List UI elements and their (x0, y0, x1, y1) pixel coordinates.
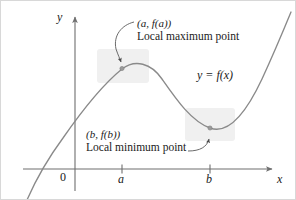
function-equation-label: y = f(x) (197, 69, 233, 82)
local-maximum-point-marker (120, 66, 124, 70)
max-point-highlight-box (97, 49, 149, 83)
y-axis-label: y (57, 11, 62, 24)
x-tick-label-b: b (206, 173, 212, 186)
origin-label: 0 (60, 171, 66, 184)
x-axis-label: x (277, 173, 282, 186)
figure-canvas: (a, f(a)) Local maximum point (b, f(b)) … (0, 0, 296, 200)
local-maximum-description-label: Local maximum point (137, 30, 239, 42)
local-minimum-point-marker (208, 126, 212, 130)
local-minimum-description-label: Local minimum point (86, 141, 186, 153)
x-tick-label-a: a (118, 173, 124, 186)
local-minimum-coordinate-label: (b, f(b)) (86, 129, 120, 141)
min-point-highlight-box (185, 108, 235, 141)
local-maximum-coordinate-label: (a, f(a)) (137, 18, 171, 30)
